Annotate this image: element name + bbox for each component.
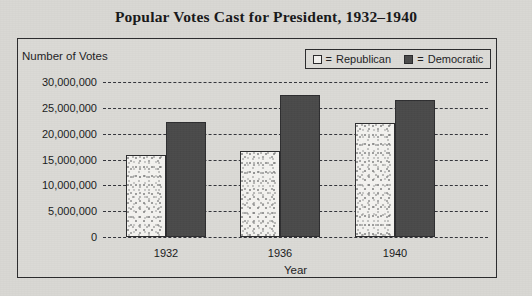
y-axis-tick-label: 30,000,000 bbox=[13, 76, 97, 88]
legend-label-republican: Republican bbox=[336, 53, 391, 65]
y-axis-tick-label: 15,000,000 bbox=[13, 154, 97, 166]
gridline bbox=[103, 82, 488, 83]
y-axis-ticks: 30,000,00025,000,00020,000,00015,000,000… bbox=[13, 82, 97, 237]
x-axis-tick-label: 1936 bbox=[268, 247, 292, 259]
y-axis-tick-label: 10,000,000 bbox=[13, 179, 97, 191]
y-axis-tick-label: 20,000,000 bbox=[13, 128, 97, 140]
y-axis-tick-label: 0 bbox=[13, 231, 97, 243]
gridline bbox=[103, 237, 488, 238]
bar-democratic-1932 bbox=[166, 122, 206, 237]
legend-item-republican: = Republican bbox=[313, 53, 391, 65]
bar-republican-1936 bbox=[240, 151, 280, 237]
bar-democratic-1936 bbox=[280, 95, 320, 237]
chart-legend: = Republican = Democratic bbox=[305, 49, 491, 69]
legend-swatch-democratic-icon bbox=[404, 55, 413, 64]
x-axis-label: Year bbox=[103, 264, 488, 276]
y-axis-tick-label: 5,000,000 bbox=[13, 205, 97, 217]
x-axis-tick-label: 1932 bbox=[154, 247, 178, 259]
chart-figure: Popular Votes Cast for President, 1932–1… bbox=[0, 0, 532, 296]
legend-label-democratic: Democratic bbox=[428, 53, 484, 65]
y-axis-label: Number of Votes bbox=[22, 50, 108, 62]
legend-separator-republican: = bbox=[326, 53, 332, 65]
chart-title: Popular Votes Cast for President, 1932–1… bbox=[0, 8, 532, 26]
x-axis-tick-label: 1940 bbox=[383, 247, 407, 259]
bar-republican-1940 bbox=[355, 123, 395, 237]
legend-swatch-republican-icon bbox=[313, 55, 322, 64]
bar-democratic-1940 bbox=[395, 100, 435, 237]
legend-separator-democratic: = bbox=[417, 53, 423, 65]
bar-republican-1932 bbox=[126, 155, 166, 237]
plot-area bbox=[103, 82, 488, 237]
y-axis-tick-label: 25,000,000 bbox=[13, 102, 97, 114]
legend-item-democratic: = Democratic bbox=[404, 53, 483, 65]
